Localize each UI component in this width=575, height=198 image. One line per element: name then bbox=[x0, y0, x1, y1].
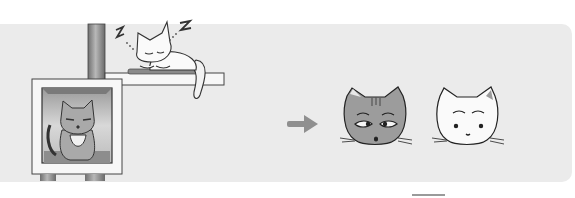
arrow-right-icon bbox=[287, 115, 318, 133]
illustration-scene bbox=[0, 0, 575, 198]
bottom-rule bbox=[412, 194, 445, 196]
cat-tree-shelf bbox=[105, 69, 224, 85]
cat-tree-pole bbox=[88, 24, 105, 80]
box-legs bbox=[40, 174, 105, 181]
sleep-z-icon bbox=[116, 21, 191, 37]
tabby-cat-face bbox=[340, 87, 412, 145]
sleeping-cat bbox=[137, 22, 206, 98]
white-cat-face bbox=[432, 87, 504, 145]
